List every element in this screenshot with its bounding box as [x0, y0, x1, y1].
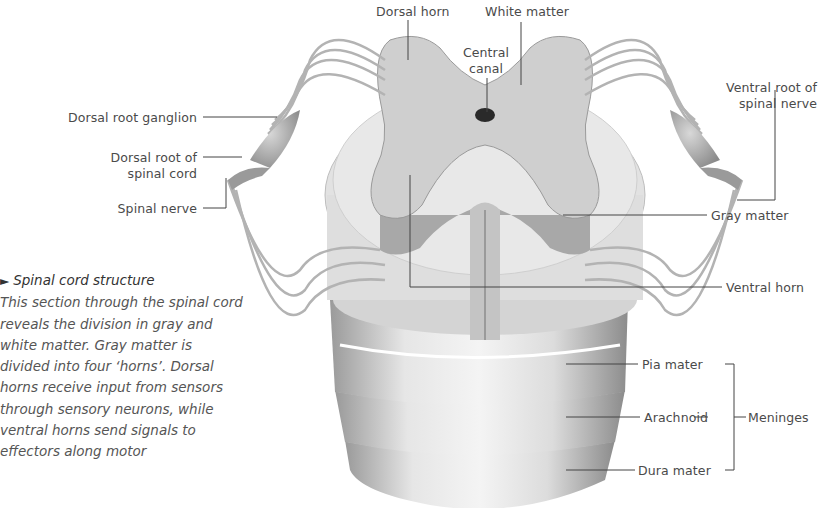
label-central-canal-line1: Central — [456, 45, 516, 60]
diagram-stage: Dorsal horn White matter Central canal D… — [0, 0, 821, 508]
central-canal-shape — [475, 108, 495, 122]
figure-caption: ►Spinal cord structure This section thro… — [0, 270, 245, 463]
label-ventral-root-line1: Ventral root of — [660, 80, 817, 95]
label-ventral-horn: Ventral horn — [726, 280, 804, 295]
label-arachnoid: Arachnoid — [644, 410, 708, 425]
label-dura-mater: Dura mater — [638, 463, 711, 478]
label-dorsal-root-line2: spinal cord — [0, 166, 197, 181]
label-meninges: Meninges — [748, 410, 809, 425]
triangle-marker-icon: ► — [0, 274, 9, 288]
label-spinal-nerve: Spinal nerve — [0, 201, 197, 216]
label-dorsal-horn: Dorsal horn — [376, 4, 450, 19]
label-central-canal-line2: canal — [456, 61, 516, 76]
label-dorsal-root-ganglion: Dorsal root ganglion — [0, 110, 197, 125]
label-ventral-root-line2: spinal nerve — [660, 96, 817, 111]
label-white-matter: White matter — [485, 4, 569, 19]
label-pia-mater: Pia mater — [642, 357, 703, 372]
caption-title-row: ►Spinal cord structure — [0, 270, 245, 292]
label-gray-matter: Gray matter — [711, 208, 788, 223]
label-dorsal-root-line1: Dorsal root of — [0, 150, 197, 165]
caption-title: Spinal cord structure — [13, 272, 154, 288]
caption-body: This section through the spinal cord rev… — [0, 294, 243, 459]
